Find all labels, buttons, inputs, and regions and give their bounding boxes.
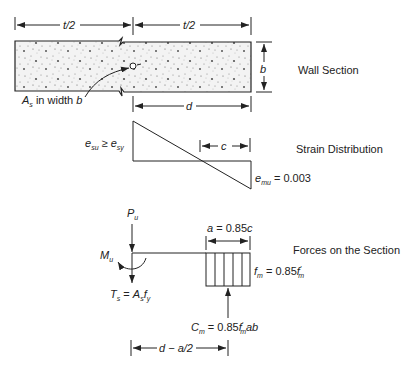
wall-section-panel: t/2 t/2 b As in width b d Wall Section	[15, 17, 359, 112]
steel-label: As in width b	[21, 94, 82, 108]
dim-d: d	[186, 100, 193, 112]
axial-load-label: Pu	[127, 207, 138, 221]
stress-block	[206, 253, 250, 286]
a-label: a = 0.85c	[207, 222, 253, 234]
caption-strain: Strain Distribution	[296, 143, 383, 155]
caption-wall-section: Wall Section	[298, 64, 359, 76]
dim-t-half-left: t/2	[63, 19, 75, 31]
compression-label: Cm = 0.85f′mab	[191, 321, 258, 335]
forces-panel: Pu Mu Ts = Asfy a = 0.85c fm = 0.85f′m C…	[100, 207, 400, 356]
concrete-strain-label: emu = 0.003	[255, 172, 311, 186]
tension-label: Ts = Asfy	[110, 288, 151, 303]
dim-t-half-right: t/2	[183, 19, 195, 31]
dim-c: c	[221, 140, 227, 152]
stress-label: fm = 0.85f′m	[254, 265, 304, 279]
lever-arm-label: d − a/2	[159, 342, 193, 354]
caption-forces: Forces on the Section	[293, 244, 400, 256]
dim-b: b	[260, 63, 266, 75]
moment-label: Mu	[100, 249, 113, 263]
strain-line	[133, 121, 251, 189]
steel-bar-icon	[130, 63, 136, 69]
steel-strain-label: esu ≥ esy	[85, 137, 124, 152]
strain-panel: c esu ≥ esy emu = 0.003 Strain Distribut…	[85, 121, 383, 189]
diagram-canvas: t/2 t/2 b As in width b d Wall Section	[0, 0, 420, 371]
